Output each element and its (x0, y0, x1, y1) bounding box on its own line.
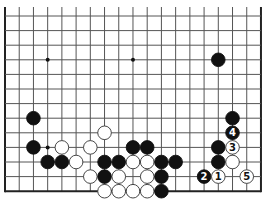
white-stone (126, 184, 140, 198)
star-point (131, 58, 135, 62)
black-stone (212, 141, 226, 155)
star-point (46, 145, 50, 149)
white-stone (140, 170, 154, 184)
white-stone-1: 1 (212, 170, 226, 184)
white-stone (140, 155, 154, 169)
white-stone (112, 170, 126, 184)
black-stone (212, 53, 226, 67)
white-stone (98, 184, 112, 198)
white-stone (55, 141, 69, 155)
white-stone (112, 184, 126, 198)
white-stone (226, 155, 240, 169)
black-stone (98, 170, 112, 184)
black-stone (155, 170, 169, 184)
black-stone (155, 184, 169, 198)
black-stone (169, 155, 183, 169)
white-stone-3: 3 (226, 141, 240, 155)
black-stone-4: 4 (226, 126, 240, 140)
move-number: 4 (229, 127, 236, 138)
white-stone (84, 170, 98, 184)
white-stone (98, 126, 112, 140)
black-stone (55, 155, 69, 169)
white-stone (126, 155, 140, 169)
black-stone-2: 2 (197, 170, 211, 184)
white-stone (69, 155, 83, 169)
white-stone-5: 5 (240, 170, 254, 184)
white-stone (84, 141, 98, 155)
white-stone (140, 184, 154, 198)
black-stone (41, 155, 55, 169)
black-stone (140, 141, 154, 155)
black-stone (112, 155, 126, 169)
black-stone (126, 141, 140, 155)
black-stone (98, 155, 112, 169)
black-stone (27, 141, 41, 155)
black-stone (226, 111, 240, 125)
black-stone (155, 155, 169, 169)
move-number: 1 (215, 171, 222, 182)
black-stone (212, 155, 226, 169)
move-number: 5 (243, 171, 250, 182)
star-point (46, 58, 50, 62)
go-board[interactable]: 42315 (0, 0, 263, 204)
move-number: 3 (229, 142, 236, 153)
black-stone (27, 111, 41, 125)
move-number: 2 (201, 171, 208, 182)
